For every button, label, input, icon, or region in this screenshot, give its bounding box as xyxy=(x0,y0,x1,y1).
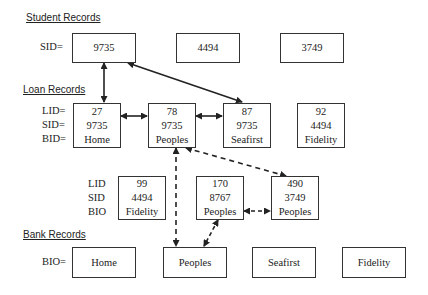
bid-value: Peoples xyxy=(156,133,189,147)
bio-value: Fidelity xyxy=(358,256,391,270)
bid-value: Fidelity xyxy=(305,133,338,147)
lid-value: 99 xyxy=(137,177,148,191)
loan-record-87: 87 9735 Seafirst xyxy=(223,103,271,148)
loan-record-92: 92 4494 Fidelity xyxy=(297,103,345,148)
sid-label: SID xyxy=(88,191,106,205)
bank-record-fidelity: Fidelity xyxy=(342,247,406,278)
loan-record-99: 99 4494 Fidelity xyxy=(118,176,166,220)
bid-value: Peoples xyxy=(204,205,237,219)
bio-value: Seafirst xyxy=(268,256,300,270)
student-record-3749: 3749 xyxy=(280,33,344,63)
bid-value: Fidelity xyxy=(126,205,159,219)
loan-records-title: Loan Records xyxy=(23,84,85,95)
bio-label: BIO xyxy=(88,205,106,219)
student-records-title: Student Records xyxy=(26,12,101,23)
link-student-9735-loan-87 xyxy=(128,63,242,102)
lid-value: 78 xyxy=(167,105,178,119)
sid-value: 3749 xyxy=(302,41,323,55)
lid-value: 490 xyxy=(287,177,303,191)
link-loan-78-loan-490 xyxy=(186,148,286,176)
sid-value: 9735 xyxy=(237,119,258,133)
bid-value: Seafirst xyxy=(231,133,263,147)
bank-records-title: Bank Records xyxy=(23,229,86,240)
student-record-9735: 9735 xyxy=(72,33,136,63)
bio-label: BIO= xyxy=(42,255,66,269)
loan-record-78: 78 9735 Peoples xyxy=(148,103,196,148)
loan-lower-field-labels: LID SID BIO xyxy=(88,177,106,219)
bank-record-home: Home xyxy=(72,247,136,278)
sid-value: 4494 xyxy=(311,119,332,133)
sid-value: 9735 xyxy=(162,119,183,133)
loan-record-27: 27 9735 Home xyxy=(73,103,121,148)
loan-field-labels: LID= SID= BID= xyxy=(42,104,66,146)
record-linkage-diagram: Student Records SID= 9735 4494 3749 Loan… xyxy=(0,0,428,295)
bank-record-seafirst: Seafirst xyxy=(252,247,316,278)
lid-value: 27 xyxy=(92,105,103,119)
lid-label: LID xyxy=(88,177,106,191)
lid-label: LID= xyxy=(42,104,66,118)
bid-value: Peoples xyxy=(279,205,312,219)
bid-value: Home xyxy=(84,133,110,147)
lid-value: 170 xyxy=(212,177,228,191)
sid-label: SID= xyxy=(40,40,63,54)
bid-label: BID= xyxy=(42,132,66,146)
sid-value: 4494 xyxy=(132,191,153,205)
loan-record-490: 490 3749 Peoples xyxy=(271,176,319,220)
sid-label: SID= xyxy=(42,118,66,132)
sid-value: 9735 xyxy=(94,41,115,55)
sid-value: 9735 xyxy=(87,119,108,133)
student-record-4494: 4494 xyxy=(176,33,240,63)
sid-value: 4494 xyxy=(198,41,219,55)
bank-record-peoples: Peoples xyxy=(163,247,227,278)
sid-value: 8767 xyxy=(210,191,231,205)
bio-value: Home xyxy=(91,256,117,270)
lid-value: 92 xyxy=(316,105,327,119)
link-loan-170-bank-peoples xyxy=(204,220,218,246)
bio-value: Peoples xyxy=(179,256,212,270)
sid-value: 3749 xyxy=(285,191,306,205)
lid-value: 87 xyxy=(242,105,253,119)
loan-record-170: 170 8767 Peoples xyxy=(196,176,244,220)
